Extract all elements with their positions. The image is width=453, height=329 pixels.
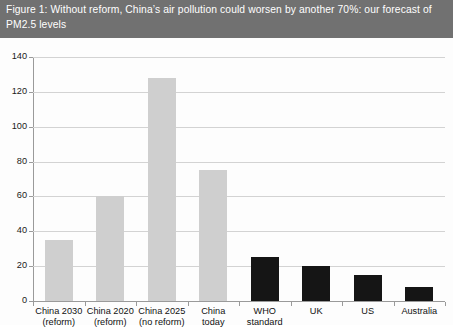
x-axis-label-7: Australia <box>394 306 446 317</box>
x-axis-label-1: China 2020(reform) <box>85 306 137 329</box>
x-axis-label-1-line-0: China 2020 <box>85 306 137 317</box>
bar-7 <box>405 287 433 301</box>
bar-2 <box>148 78 176 301</box>
y-axis-label-60: 60 <box>1 190 27 200</box>
x-axis-label-6-line-0: US <box>342 306 394 317</box>
y-tick-mark-100 <box>29 127 33 128</box>
x-axis-label-4: WHOstandard <box>239 306 291 329</box>
x-axis-label-3-line-0: China <box>188 306 240 317</box>
gridline-20 <box>33 266 445 267</box>
y-tick-mark-80 <box>29 162 33 163</box>
gridline-60 <box>33 196 445 197</box>
figure-title-banner: Figure 1: Without reform, China’s air po… <box>0 0 453 38</box>
x-axis-label-4-line-1: standard <box>239 317 291 328</box>
y-axis-label-140: 140 <box>1 51 27 61</box>
gridline-120 <box>33 92 445 93</box>
x-axis-label-7-line-0: Australia <box>394 306 446 317</box>
x-tick-mark-7 <box>445 302 446 306</box>
bar-3 <box>199 170 227 301</box>
chart-plot-area: 020406080100120140 China 2030(reform)Chi… <box>33 58 445 302</box>
y-axis-label-100: 100 <box>1 121 27 131</box>
x-axis-label-2-line-1: (no reform) <box>136 317 188 328</box>
x-axis-label-0-line-0: China 2030 <box>33 306 85 317</box>
bar-0 <box>45 240 73 301</box>
x-axis-label-5: UK <box>291 306 343 317</box>
y-axis-label-80: 80 <box>1 156 27 166</box>
bar-6 <box>354 275 382 301</box>
x-axis-label-2: China 2025(no reform) <box>136 306 188 329</box>
gridline-80 <box>33 162 445 163</box>
x-axis-label-0-line-1: (reform) <box>33 317 85 328</box>
y-axis-label-120: 120 <box>1 86 27 96</box>
figure-title: Figure 1: Without reform, China’s air po… <box>6 3 445 32</box>
x-axis-label-5-line-0: UK <box>291 306 343 317</box>
bar-5 <box>302 266 330 301</box>
gridline-140 <box>33 57 445 58</box>
y-axis-label-40: 40 <box>1 225 27 235</box>
x-axis-label-6: US <box>342 306 394 317</box>
y-tick-mark-140 <box>29 57 33 58</box>
y-axis-label-20: 20 <box>1 260 27 270</box>
y-tick-mark-120 <box>29 92 33 93</box>
bar-4 <box>251 257 279 301</box>
x-axis-label-3-line-1: today <box>188 317 240 328</box>
x-axis-label-0: China 2030(reform) <box>33 306 85 329</box>
y-tick-mark-20 <box>29 266 33 267</box>
x-axis-label-4-line-0: WHO <box>239 306 291 317</box>
gridline-40 <box>33 231 445 232</box>
x-axis-label-3: Chinatoday <box>188 306 240 329</box>
bar-1 <box>96 196 124 301</box>
x-axis-label-2-line-0: China 2025 <box>136 306 188 317</box>
y-tick-mark-40 <box>29 231 33 232</box>
gridline-100 <box>33 127 445 128</box>
y-axis-label-0: 0 <box>1 295 27 305</box>
y-tick-mark-60 <box>29 196 33 197</box>
x-axis-label-1-line-1: (reform) <box>85 317 137 328</box>
